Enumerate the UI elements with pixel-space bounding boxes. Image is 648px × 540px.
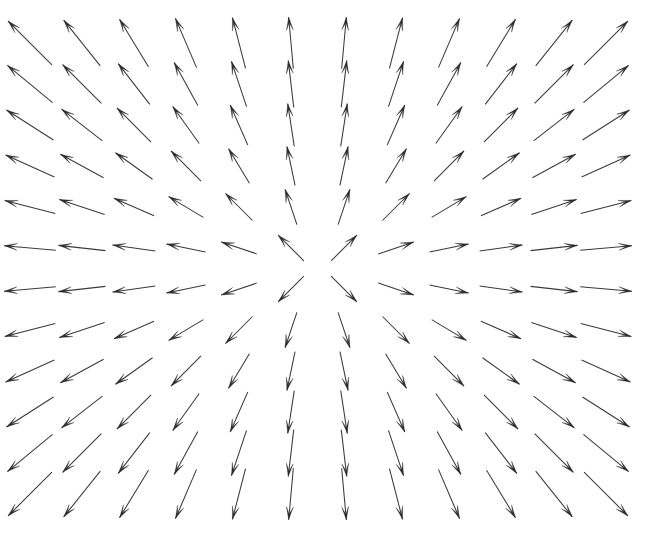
plot-background bbox=[0, 0, 648, 540]
vector-field-plot bbox=[0, 0, 648, 540]
quiver-figure bbox=[0, 0, 648, 540]
